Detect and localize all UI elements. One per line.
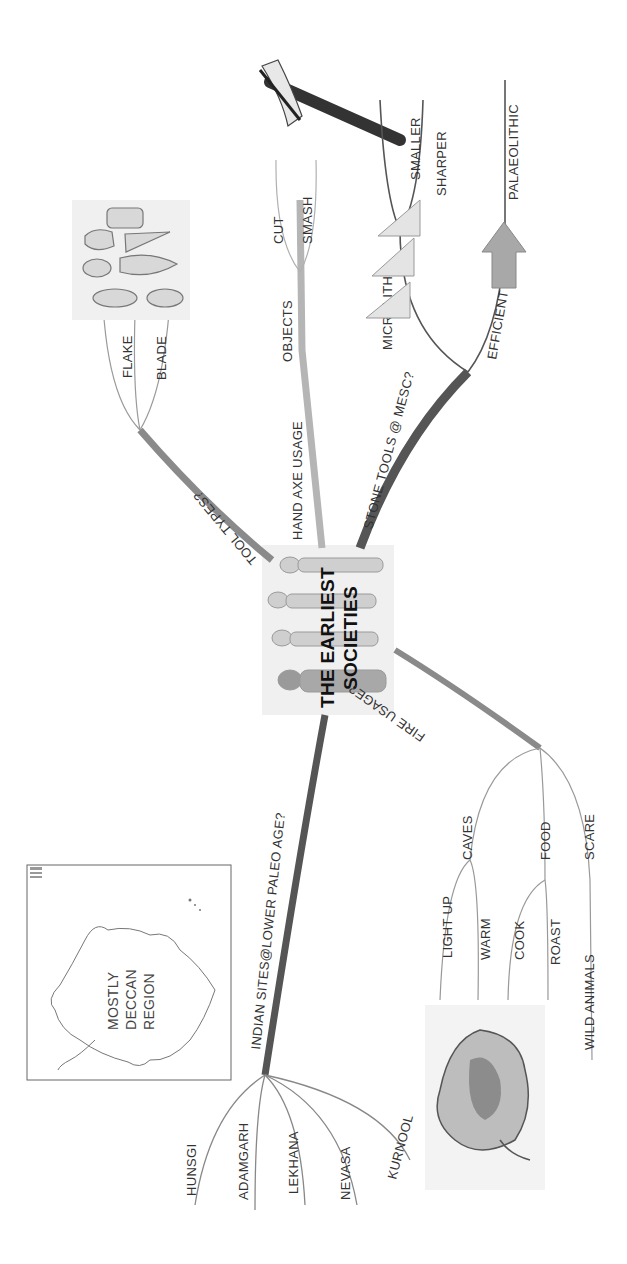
microliths-illustration (366, 200, 420, 318)
arrow-up-icon (482, 222, 526, 288)
branch-fire-usage[interactable]: FIRE USAGE? CAVES LIGHT UP WARM FOOD COO… (346, 650, 597, 1060)
indian-sites-children (195, 1075, 410, 1210)
node-sharper[interactable]: SHARPER (434, 131, 449, 196)
node-lekhana[interactable]: LEKHANA (286, 1131, 301, 1194)
node-smash[interactable]: SMASH (300, 196, 315, 244)
node-cut[interactable]: CUT (271, 216, 286, 244)
hand-axe-illustration (260, 60, 400, 140)
node-flake[interactable]: FLAKE (120, 335, 135, 378)
node-caves[interactable]: CAVES (460, 815, 475, 860)
mind-map-canvas: THE EARLIEST SOCIETIES TOOL TYPES? CORE … (0, 0, 627, 1264)
branch-label-indian-sites: INDIAN SITES@LOWER PALEO AGE? (248, 812, 288, 1051)
node-nevasa[interactable]: NEVASA (338, 1146, 353, 1200)
node-efficient[interactable]: EFFICIENT (484, 289, 511, 360)
india-map-illustration: MOSTLY DECCAN REGION (27, 865, 231, 1080)
stone-tools-illustration (72, 200, 190, 320)
node-blade[interactable]: BLADE (154, 336, 169, 380)
legend-icon (30, 867, 42, 878)
node-scare[interactable]: SCARE (582, 814, 597, 860)
central-topic-line2: SOCIETIES (340, 586, 361, 690)
node-kurnool[interactable]: KURNOOL (384, 1113, 416, 1181)
node-smaller[interactable]: SMALLER (408, 117, 423, 180)
map-label-line1: MOSTLY (105, 971, 121, 1030)
node-warm[interactable]: WARM (478, 918, 493, 960)
node-objects[interactable]: OBJECTS (280, 300, 295, 362)
node-hunsgi[interactable]: HUNSGI (184, 1144, 199, 1196)
node-palaeolithic[interactable]: PALAEOLITHIC (506, 104, 521, 200)
branch-label-hand-axe-usage: HAND AXE USAGE (290, 421, 305, 540)
node-food[interactable]: FOOD (538, 821, 553, 860)
central-topic-line1: THE EARLIEST (317, 567, 338, 708)
branch-hand-axe-usage[interactable]: HAND AXE USAGE OBJECTS CUT SMASH (271, 160, 322, 548)
node-roast[interactable]: ROAST (548, 919, 563, 965)
map-label-line3: REGION (141, 973, 157, 1030)
branch-label-tool-types: TOOL TYPES? (190, 488, 260, 568)
node-cook-text[interactable]: COOK (512, 920, 527, 960)
fire-illustration (425, 1005, 545, 1190)
central-topic[interactable]: THE EARLIEST SOCIETIES (262, 545, 394, 715)
node-light-up[interactable]: LIGHT UP (440, 896, 455, 958)
node-adamgarh[interactable]: ADAMGARH (236, 1122, 251, 1200)
map-label-line2: DECCAN (123, 969, 139, 1030)
node-wild-animals[interactable]: WILD ANIMALS (582, 954, 597, 1050)
